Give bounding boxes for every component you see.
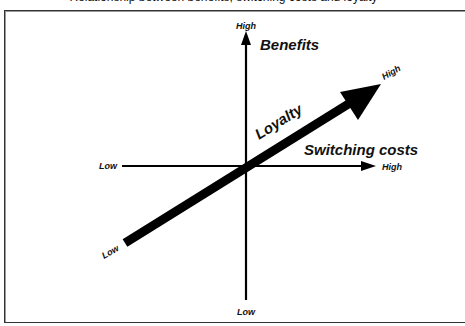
horizontal-axis-label: Switching costs [304,141,418,158]
arrow-up-icon [241,31,251,45]
loyalty-arrow [125,84,381,243]
loyalty-low-label: Low [100,243,121,261]
horizontal-high-label: High [382,162,402,172]
loyalty-high-label: High [380,63,403,82]
vertical-low-label: Low [237,307,256,317]
vertical-high-label: High [236,21,256,31]
arrow-right-icon [361,161,376,171]
horizontal-low-label: Low [99,161,118,171]
vertical-axis-label: Benefits [260,36,319,53]
